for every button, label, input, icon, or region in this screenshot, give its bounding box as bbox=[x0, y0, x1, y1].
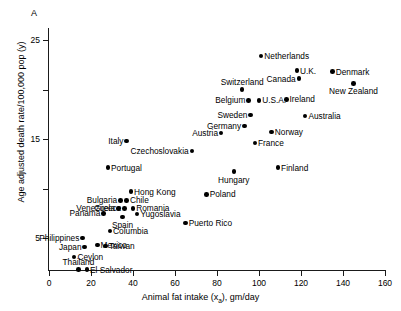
x-axis-tick-label: 140 bbox=[328, 279, 358, 288]
data-point bbox=[242, 124, 247, 129]
x-axis-tick bbox=[259, 271, 260, 276]
data-point bbox=[106, 165, 111, 170]
data-point bbox=[85, 267, 90, 272]
data-point-label: Columbia bbox=[113, 227, 148, 235]
x-axis-tick-label: 100 bbox=[244, 279, 274, 288]
data-point bbox=[131, 206, 136, 211]
data-point bbox=[108, 229, 113, 234]
x-axis-tick bbox=[385, 271, 386, 276]
data-point bbox=[82, 245, 87, 250]
x-axis-tick-label: 60 bbox=[160, 279, 190, 288]
data-point bbox=[330, 69, 335, 74]
x-axis-tick bbox=[133, 271, 134, 276]
x-axis-tick-label: 160 bbox=[370, 279, 400, 288]
data-point-label: Netherlands bbox=[264, 52, 309, 60]
data-point-label: Belgium bbox=[215, 96, 245, 104]
data-point bbox=[219, 131, 224, 136]
plot-area: NetherlandsU.K.DenmarkCanadaNew ZealandS… bbox=[49, 28, 385, 270]
data-point-label: El Salvador bbox=[90, 266, 132, 274]
panel-label: A bbox=[31, 8, 37, 18]
data-point bbox=[303, 114, 308, 119]
data-point bbox=[80, 236, 85, 241]
data-point bbox=[204, 192, 209, 197]
data-point-label: Norway bbox=[275, 128, 303, 136]
data-point bbox=[297, 76, 302, 81]
data-point bbox=[232, 169, 237, 174]
x-axis-title: Animal fat intake (xa), gm/day bbox=[0, 292, 401, 304]
data-point-label: France bbox=[258, 139, 284, 147]
data-point-label: Portugal bbox=[111, 164, 142, 172]
data-point bbox=[257, 98, 262, 103]
data-point bbox=[240, 87, 245, 92]
x-axis-tick bbox=[343, 271, 344, 276]
data-point bbox=[190, 149, 195, 154]
data-point bbox=[351, 81, 356, 86]
data-point-label: Australia bbox=[308, 112, 340, 120]
y-axis-tick-label: 5 bbox=[14, 234, 40, 243]
data-point-label: U.K. bbox=[300, 67, 316, 75]
data-point bbox=[76, 267, 81, 272]
data-point-label: Yugoslavia bbox=[140, 210, 180, 218]
y-axis-title: Age adjusted death rate/100,000 pop (y) bbox=[16, 17, 26, 227]
data-point bbox=[135, 212, 140, 217]
x-axis-tick bbox=[217, 271, 218, 276]
data-point bbox=[101, 211, 106, 216]
data-point-label: Austria bbox=[192, 129, 218, 137]
data-point-label: Panama bbox=[69, 209, 100, 217]
data-point bbox=[284, 97, 289, 102]
x-axis-tick-label: 20 bbox=[76, 279, 106, 288]
data-point-label: Denmark bbox=[336, 68, 370, 76]
data-point bbox=[118, 198, 123, 203]
x-axis-tick bbox=[175, 271, 176, 276]
data-point-label: Ireland bbox=[290, 95, 315, 103]
x-axis-tick bbox=[301, 271, 302, 276]
data-point bbox=[120, 215, 125, 220]
data-point bbox=[103, 244, 108, 249]
data-point-label: Japan bbox=[59, 243, 82, 251]
data-point bbox=[269, 130, 274, 135]
scatter-plot-figure: A 51525 020406080100120140160 Age adjust… bbox=[0, 0, 401, 311]
data-point-label: Czechoslovakia bbox=[130, 147, 188, 155]
data-point bbox=[129, 189, 134, 194]
data-point bbox=[124, 139, 129, 144]
data-point bbox=[295, 68, 300, 73]
data-point-label: Italy bbox=[108, 137, 123, 145]
data-point-label: Poland bbox=[210, 190, 236, 198]
x-axis-tick-label: 80 bbox=[202, 279, 232, 288]
data-point-label: Canada bbox=[267, 74, 296, 82]
data-point bbox=[122, 206, 127, 211]
data-point bbox=[95, 243, 100, 248]
data-point-label: Sweden bbox=[217, 111, 247, 119]
data-point-label: Hungary bbox=[218, 176, 249, 184]
x-axis-tick-label: 40 bbox=[118, 279, 148, 288]
data-point-label: Finland bbox=[281, 164, 308, 172]
data-point bbox=[248, 113, 253, 118]
data-point bbox=[124, 198, 129, 203]
x-axis-title-text: Animal fat intake (xa), gm/day bbox=[142, 292, 260, 302]
data-point bbox=[246, 98, 251, 103]
data-point bbox=[183, 221, 188, 226]
data-point bbox=[253, 141, 258, 146]
x-axis-tick bbox=[49, 271, 50, 276]
data-point-label: Taiwan bbox=[109, 242, 135, 250]
x-axis-tick-label: 0 bbox=[34, 279, 64, 288]
data-point-label: U.S.A. bbox=[262, 96, 286, 104]
data-point-label: Puerto Rico bbox=[189, 219, 232, 227]
data-point-label: Switzerland bbox=[221, 77, 264, 85]
data-point bbox=[259, 54, 264, 59]
data-point-label: New Zealand bbox=[329, 87, 378, 95]
x-axis-tick-label: 120 bbox=[286, 279, 316, 288]
data-point bbox=[276, 165, 281, 170]
